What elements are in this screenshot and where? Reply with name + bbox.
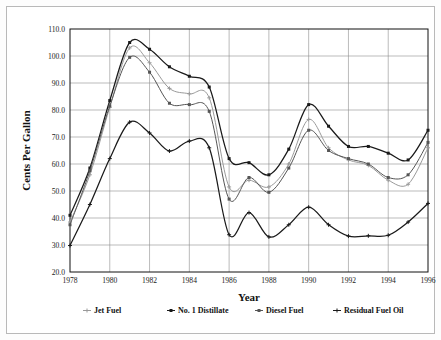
x-tick-label: 1990: [301, 276, 316, 285]
data-point-marker: [69, 223, 72, 226]
data-point-marker: [287, 148, 290, 151]
data-point-marker: [248, 161, 251, 164]
legend-item-residual-fuel-oil[interactable]: Residual Fuel Oil: [333, 306, 404, 315]
data-point-marker: [367, 163, 370, 166]
data-point-marker: [427, 129, 430, 132]
data-point-marker: [407, 173, 410, 176]
chart-legend: Jet FuelNo. 1 DistillateDiesel FuelResid…: [83, 306, 404, 315]
x-tick-label: 1984: [182, 276, 197, 285]
data-point-marker: [188, 75, 191, 78]
y-tick-label: 110.0: [48, 25, 65, 34]
data-point-marker: [387, 152, 390, 155]
data-point-marker: [227, 185, 231, 189]
x-tick-label: 1986: [222, 276, 237, 285]
legend-marker-icon: [85, 309, 89, 313]
data-point-marker: [108, 157, 112, 161]
legend-item-no-1-distillate[interactable]: No. 1 Distillate: [167, 306, 229, 315]
data-point-marker: [228, 198, 231, 201]
y-tick-label: 90.0: [52, 79, 65, 88]
data-point-marker: [128, 56, 131, 59]
data-point-marker: [267, 173, 270, 176]
legend-marker-icon: [335, 309, 339, 313]
y-tick-label: 40.0: [52, 214, 65, 223]
legend-label: Residual Fuel Oil: [344, 306, 404, 315]
data-point-marker: [208, 86, 211, 89]
chart-figure: 20.030.040.050.060.070.080.090.0100.0110…: [0, 0, 441, 340]
x-tick-label: 1978: [62, 276, 77, 285]
series-no-1-distillate: [69, 39, 430, 216]
data-point-marker: [207, 96, 211, 100]
data-point-marker: [148, 71, 151, 74]
legend-label: No. 1 Distillate: [178, 306, 229, 315]
data-point-marker: [347, 145, 350, 148]
data-point-marker: [267, 191, 270, 194]
data-point-marker: [407, 158, 410, 161]
data-point-marker: [208, 110, 211, 113]
line-chart: 20.030.040.050.060.070.080.090.0100.0110…: [0, 0, 441, 340]
x-tick-label: 1982: [142, 276, 157, 285]
data-point-marker: [247, 211, 251, 215]
data-point-marker: [88, 203, 92, 207]
data-point-marker: [168, 65, 171, 68]
series-line: [70, 121, 428, 245]
series-jet-fuel: [68, 46, 430, 224]
x-tick-label: 1988: [261, 276, 276, 285]
series-line: [70, 56, 428, 225]
data-point-marker: [287, 167, 290, 170]
data-point-marker: [187, 139, 191, 143]
data-point-marker: [68, 244, 72, 248]
legend-marker-icon: [170, 309, 173, 312]
data-point-marker: [128, 41, 131, 44]
y-tick-label: 70.0: [52, 133, 65, 142]
y-tick-label: 100.0: [48, 52, 65, 61]
data-point-marker: [327, 125, 330, 128]
data-point-marker: [88, 169, 91, 172]
data-point-marker: [366, 234, 370, 238]
data-point-marker: [327, 149, 330, 152]
data-point-marker: [427, 141, 430, 144]
y-axis-title: Cents Per Gallon: [20, 110, 32, 190]
y-tick-label: 60.0: [52, 160, 65, 169]
x-axis-title: Year: [238, 291, 260, 303]
data-point-marker: [367, 145, 370, 148]
data-series-group: [68, 39, 430, 247]
data-point-marker: [228, 157, 231, 160]
data-point-marker: [168, 102, 171, 105]
legend-marker-icon: [258, 309, 261, 312]
data-point-marker: [426, 146, 430, 150]
x-tick-label: 1994: [381, 276, 396, 285]
data-point-marker: [307, 129, 310, 132]
legend-item-diesel-fuel[interactable]: Diesel Fuel: [255, 306, 304, 315]
data-point-marker: [347, 157, 350, 160]
y-tick-label: 80.0: [52, 106, 65, 115]
data-point-marker: [148, 48, 151, 51]
data-point-marker: [307, 103, 310, 106]
data-point-marker: [69, 214, 72, 217]
data-point-marker: [187, 92, 191, 96]
legend-label: Jet Fuel: [94, 306, 122, 315]
legend-label: Diesel Fuel: [266, 306, 304, 315]
data-point-marker: [207, 146, 211, 150]
data-point-marker: [108, 104, 111, 107]
x-tick-label: 1992: [341, 276, 356, 285]
data-point-marker: [267, 185, 271, 189]
data-point-marker: [386, 233, 390, 237]
data-point-marker: [188, 103, 191, 106]
y-tick-label: 50.0: [52, 187, 65, 196]
data-point-marker: [387, 176, 390, 179]
data-point-marker: [248, 176, 251, 179]
series-diesel-fuel: [69, 56, 430, 226]
y-tick-label: 30.0: [52, 241, 65, 250]
series-line: [70, 46, 428, 222]
x-tick-label: 1980: [102, 276, 117, 285]
data-point-marker: [167, 149, 171, 153]
data-point-marker: [307, 205, 311, 209]
y-axis-tick-labels: 20.030.040.050.060.070.080.090.0100.0110…: [48, 25, 65, 277]
legend-item-jet-fuel[interactable]: Jet Fuel: [83, 306, 122, 315]
x-tick-label: 1996: [420, 276, 435, 285]
data-point-marker: [346, 234, 350, 238]
x-axis-tick-labels: 1978198019821984198619881990199219941996: [62, 276, 435, 285]
series-residual-fuel-oil: [68, 120, 430, 247]
